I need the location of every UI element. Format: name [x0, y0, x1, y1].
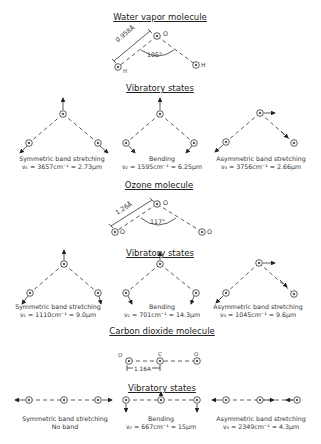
- water-vib-title: Vibratory states: [126, 83, 194, 93]
- co2-bond-length: 1.16A: [133, 365, 152, 373]
- co2-mode-1: Symmetric band stretching No band: [22, 415, 108, 430]
- ozone-mode-1: Symmetric band stretching ν₁ = 1110cm⁻¹ …: [15, 303, 101, 318]
- co2-mode-2: Bending ν₂ = 667cm⁻¹ = 15μm: [126, 415, 196, 430]
- water-atom-center: O: [163, 30, 168, 38]
- mode-formula: ν₁ = 3657cm⁻¹ = 2.73μm: [19, 163, 105, 171]
- co2-atom-right: O: [194, 350, 198, 358]
- ozone-mode-2: Bending ν₂ = 701cm⁻¹ = 14.3μm: [124, 303, 200, 318]
- water-mode-2: Bending ν₂ = 1595cm⁻¹ = 6.25μm: [122, 155, 202, 170]
- mode-formula: ν₃ = 2349cm⁻¹ = 4.3μm: [216, 423, 305, 431]
- mode-name: Bending: [126, 415, 196, 423]
- mode-formula: ν₂ = 667cm⁻¹ = 15μm: [126, 423, 196, 431]
- mode-name: Symmetric band stretching: [22, 415, 108, 423]
- mode-formula: ν₁ = 1110cm⁻¹ = 9.0μm: [15, 311, 101, 319]
- mode-name: Symmetric band stretching: [15, 303, 101, 311]
- mode-name: Bending: [122, 155, 202, 163]
- mode-formula: No band: [22, 423, 108, 431]
- water-atom-left: H: [123, 67, 127, 75]
- mode-name: Asymmetric band stretching: [216, 155, 305, 163]
- co2-atom-left: O: [118, 351, 122, 359]
- ozone-mode-3: Asymmetric band stretching ν₃ = 1045cm⁻¹…: [213, 303, 302, 318]
- mode-formula: ν₃ = 1045cm⁻¹ = 9.6μm: [213, 311, 302, 319]
- ozone-title: Ozone molecule: [125, 180, 193, 190]
- mode-name: Symmetric band stretching: [19, 155, 105, 163]
- mode-formula: ν₂ = 1595cm⁻¹ = 6.25μm: [122, 163, 202, 171]
- ozone-angle: 117°: [150, 218, 165, 226]
- mode-formula: ν₂ = 701cm⁻¹ = 14.3μm: [124, 311, 200, 319]
- ozone-atom-left: O: [120, 228, 125, 236]
- co2-mode-3: Asymmetric band stretching ν₃ = 2349cm⁻¹…: [216, 415, 305, 430]
- water-mode-3: Asymmetric band stretching ν₃ = 3756cm⁻¹…: [216, 155, 305, 170]
- co2-title: Carbon dioxide molecule: [109, 326, 214, 336]
- water-angle: 105°: [147, 51, 162, 59]
- water-atom-right: H: [201, 61, 206, 69]
- mode-formula: ν₃ = 3756cm⁻¹ = 2.66μm: [216, 163, 305, 171]
- ozone-vib-title: Vibratory states: [126, 248, 194, 258]
- water-mode-1: Symmetric band stretching ν₁ = 3657cm⁻¹ …: [19, 155, 105, 170]
- mode-name: Asymmetric band stretching: [216, 415, 305, 423]
- mode-name: Asymmetric band stretching: [213, 303, 302, 311]
- mode-name: Bending: [124, 303, 200, 311]
- co2-vib-title: Vibratory states: [128, 383, 196, 393]
- co2-atom-center: C: [158, 350, 162, 358]
- ozone-atom-right: O: [207, 228, 212, 236]
- ozone-atom-center: O: [163, 199, 168, 207]
- water-title: Water vapor molecule: [113, 12, 207, 22]
